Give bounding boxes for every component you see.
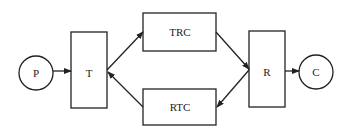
edge-r-rtc [217, 70, 249, 107]
edge-t-trc [107, 32, 143, 70]
edge-rtc-t [108, 72, 143, 107]
label-c: C [312, 66, 319, 78]
label-rtc: RTC [170, 101, 191, 113]
label-r: R [263, 66, 271, 78]
label-trc: TRC [169, 26, 190, 38]
label-p: P [33, 67, 39, 79]
label-t: T [86, 67, 93, 79]
edge-trc-r [216, 32, 249, 69]
flow-diagram: P T TRC RTC R C [0, 0, 356, 136]
